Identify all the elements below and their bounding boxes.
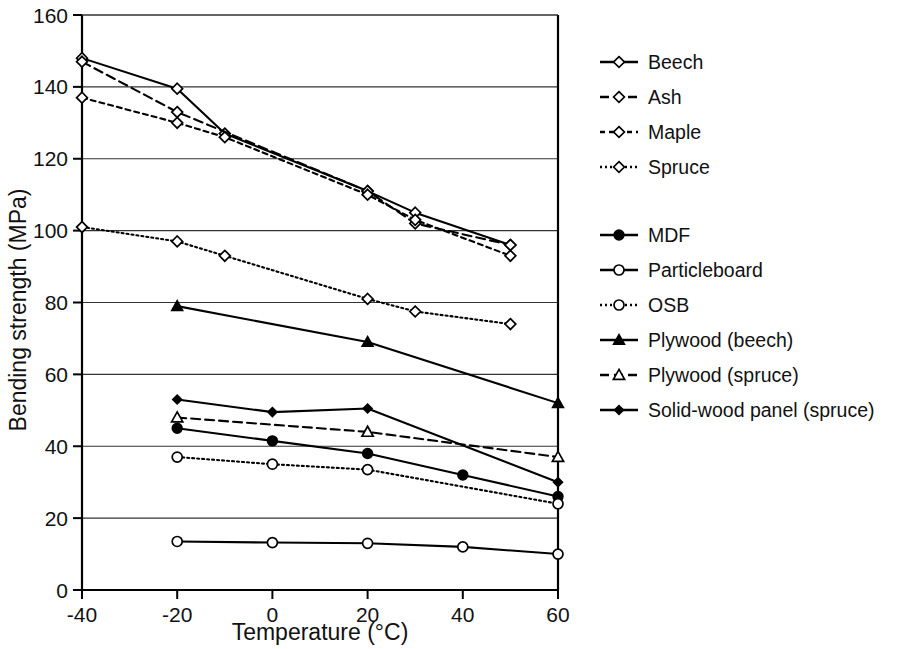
data-point: [267, 436, 277, 446]
data-point: [553, 549, 563, 559]
data-point: [458, 542, 468, 552]
legend-label: Spruce: [648, 156, 710, 178]
chart-canvas: -40-200204060 020406080100120140160 Beec…: [0, 0, 905, 649]
bending-strength-chart: -40-200204060 020406080100120140160 Beec…: [0, 0, 905, 649]
legend-label: Solid-wood panel (spruce): [648, 399, 875, 421]
data-point: [267, 459, 277, 469]
y-axis-title: Bending strength (MPa): [5, 189, 31, 432]
data-point: [458, 470, 468, 480]
legend-label: MDF: [648, 224, 690, 246]
data-point: [172, 452, 182, 462]
x-axis-title: Temperature (°C): [232, 619, 409, 645]
data-point: [363, 538, 373, 548]
y-tick-label: 40: [45, 435, 68, 458]
legend-label: Ash: [648, 86, 682, 108]
legend-marker: [614, 230, 624, 240]
y-tick-label: 120: [33, 147, 68, 170]
data-point: [267, 538, 277, 548]
x-tick-label: -20: [162, 603, 192, 626]
legend-marker: [614, 300, 624, 310]
y-tick-label: 160: [33, 4, 68, 27]
y-tick-label: 80: [45, 291, 68, 314]
data-point: [172, 423, 182, 433]
chart-background: [0, 0, 905, 649]
legend-marker: [614, 265, 624, 275]
data-point: [363, 448, 373, 458]
y-tick-label: 60: [45, 363, 68, 386]
legend-label: Beech: [648, 51, 703, 73]
y-tick-label: 140: [33, 75, 68, 98]
x-tick-label: -40: [67, 603, 97, 626]
y-tick-label: 100: [33, 219, 68, 242]
y-tick-label: 0: [56, 579, 68, 602]
y-tick-label: 20: [45, 507, 68, 530]
legend-label: Plywood (beech): [648, 329, 793, 351]
data-point: [553, 499, 563, 509]
data-point: [363, 465, 373, 475]
legend-label: Particleboard: [648, 259, 763, 281]
data-point: [172, 536, 182, 546]
legend-label: OSB: [648, 294, 689, 316]
x-tick-label: 40: [451, 603, 474, 626]
legend-label: Plywood (spruce): [648, 364, 799, 386]
legend-label: Maple: [648, 121, 701, 143]
x-tick-label: 60: [546, 603, 569, 626]
